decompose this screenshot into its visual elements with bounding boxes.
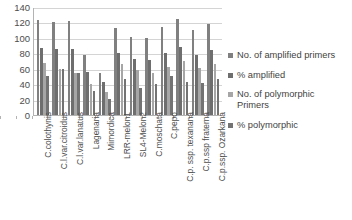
- chart-legend: No. of amplified primers% amplifiedNo. o…: [228, 50, 352, 139]
- y-tick-label: 20: [0, 96, 30, 106]
- x-axis-category-labels: C.colothynisC.l.var.citroidusC.l.var.lan…: [33, 112, 222, 216]
- x-axis-label: C.l.var.lanatus: [65, 112, 81, 212]
- bar: [170, 76, 173, 115]
- bar: [201, 83, 204, 115]
- legend-swatch-icon: [228, 92, 233, 97]
- x-axis-label: C.p.ssp. Ozarkana: [206, 112, 222, 212]
- legend-label: No. of polymorphic Primers: [237, 89, 345, 110]
- y-tick-label: 60: [0, 65, 30, 75]
- bars-layer: [34, 8, 222, 115]
- bar: [77, 73, 80, 115]
- y-tick-label: 120: [0, 19, 30, 29]
- x-axis-label: C.p.ssp fraterna: [191, 112, 207, 212]
- x-axis-label: C.l.var.citroidus: [49, 112, 65, 212]
- bar: [155, 84, 158, 115]
- x-axis-label: SL4-Melon2: [128, 112, 144, 212]
- y-tick-label: 40: [0, 80, 30, 90]
- bar-group: [144, 8, 160, 115]
- bar-group: [159, 8, 175, 115]
- x-axis-label-text: C.p.ssp. Ozarkana: [218, 112, 226, 181]
- x-axis-tick: [0, 116, 1, 119]
- x-axis-label: LRR-melon1: [112, 112, 128, 212]
- x-axis-label: Lagenaria: [80, 112, 96, 212]
- x-axis-label: Mimordica: [96, 112, 112, 212]
- legend-item[interactable]: % amplified: [228, 70, 352, 81]
- bar-group: [66, 8, 82, 115]
- y-tick-label: 140: [0, 3, 30, 13]
- bar-group: [97, 8, 113, 115]
- x-axis-label: C.colothynis: [33, 112, 49, 212]
- bar: [186, 82, 189, 115]
- bar-group: [175, 8, 191, 115]
- legend-item[interactable]: No. of polymorphic Primers: [228, 89, 352, 110]
- x-axis-label: C.pepo: [159, 112, 175, 212]
- bar-group: [128, 8, 144, 115]
- legend-label: % amplified: [237, 70, 285, 81]
- bar-group: [190, 8, 206, 115]
- bar-group: [35, 8, 51, 115]
- bar: [62, 69, 65, 115]
- bar-group: [82, 8, 98, 115]
- y-axis-tick-labels: 020406080100120140: [0, 8, 30, 116]
- legend-label: % polymorphic: [237, 120, 298, 131]
- bar-group: [113, 8, 129, 115]
- bar: [217, 79, 220, 115]
- legend-swatch-icon: [228, 73, 233, 78]
- plot-wrapper: 020406080100120140: [0, 8, 224, 126]
- legend-swatch-icon: [228, 53, 233, 58]
- legend-label: No. of amplified primers: [237, 50, 335, 61]
- legend-item[interactable]: % polymorphic: [228, 120, 352, 131]
- x-axis-tick: [16, 116, 17, 119]
- bar: [124, 79, 127, 115]
- legend-swatch-icon: [228, 123, 233, 128]
- bar: [46, 76, 49, 115]
- bar-chart: 020406080100120140 C.colothynisC.l.var.c…: [0, 0, 352, 220]
- plot-area: [33, 8, 222, 116]
- x-axis-label: C.p. ssp. texanana: [175, 112, 191, 212]
- legend-item[interactable]: No. of amplified primers: [228, 50, 352, 61]
- x-axis-label: C.moschata: [143, 112, 159, 212]
- bar: [139, 88, 142, 115]
- y-tick-label: 100: [0, 34, 30, 44]
- bar-group: [206, 8, 222, 115]
- bar-group: [51, 8, 67, 115]
- y-tick-label: 80: [0, 50, 30, 60]
